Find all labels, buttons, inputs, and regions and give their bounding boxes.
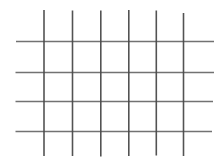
grid-diagram [0, 0, 224, 162]
drawing-canvas [0, 0, 224, 162]
canvas-background [0, 0, 224, 162]
